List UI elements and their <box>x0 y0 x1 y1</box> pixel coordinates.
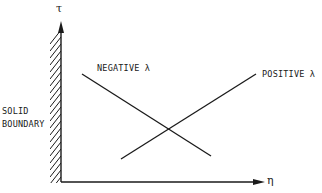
solid-boundary-label-line2: BOUNDARY <box>2 119 45 129</box>
solid-boundary-hatching <box>50 30 61 191</box>
eta-axis-label: η <box>267 174 274 187</box>
eta-axis-arrowhead-icon <box>253 179 265 185</box>
positive-lambda-label: POSITIVE λ <box>262 69 315 79</box>
diagram-canvas <box>0 0 322 193</box>
positive-lambda-line <box>121 74 256 159</box>
tau-axis-label: τ <box>56 2 62 15</box>
tau-axis-arrowhead-icon <box>58 21 64 33</box>
solid-boundary-label-line1: SOLID <box>2 106 29 116</box>
negative-lambda-label: NEGATIVE λ <box>97 63 150 73</box>
